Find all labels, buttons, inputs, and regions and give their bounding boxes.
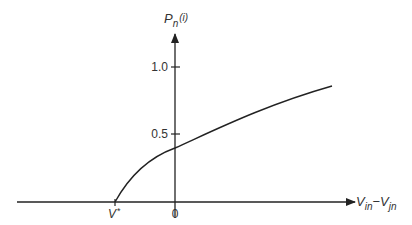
probability-curve [115,86,332,202]
vstar-label: V* [108,206,121,221]
y-tick-label-1: 1.0 [151,60,168,74]
chart-canvas: 1.0 0.5 0 V* Pn(i) Vin−Vjn [0,0,412,225]
y-tick-label-05: 0.5 [151,127,168,141]
y-axis-label: Pn(i) [164,11,188,29]
x-axis-label: Vin−Vjn [356,194,397,212]
x-tick-label-0: 0 [172,207,179,221]
